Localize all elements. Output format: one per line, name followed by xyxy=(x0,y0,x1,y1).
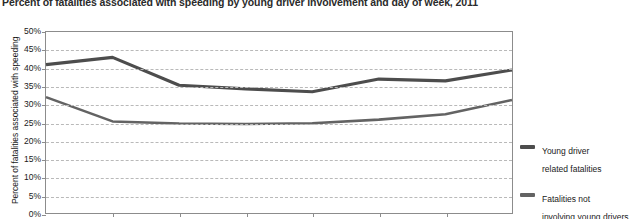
y-axis-tick-labels: 50%45%40%35%30%25%20%15%10%5%0% xyxy=(13,31,44,214)
y-axis-tick-label: 20% xyxy=(24,136,41,146)
gridline xyxy=(46,160,512,161)
y-axis-tick-label: 40% xyxy=(24,63,41,73)
y-axis-tick xyxy=(42,32,46,33)
gridline xyxy=(46,142,512,143)
y-axis-tick xyxy=(42,69,46,70)
legend-swatch-icon xyxy=(520,145,535,149)
y-axis-tick xyxy=(42,124,46,125)
legend-label: Young driver related fatalities xyxy=(542,146,602,174)
x-axis-tick xyxy=(180,213,181,217)
series-line-1 xyxy=(46,97,512,124)
legend-item[interactable]: Young driver related fatalities xyxy=(520,140,634,176)
y-axis-tick xyxy=(42,197,46,198)
y-axis-tick-label: 50% xyxy=(24,26,41,36)
y-axis-tick-label: 0% xyxy=(29,209,41,219)
y-axis-tick-label: 35% xyxy=(24,81,41,91)
legend-label: Fatalities not involving young drivers xyxy=(542,194,628,219)
gridline xyxy=(46,87,512,88)
y-axis-title-container: Percent of fatalities associated with sp… xyxy=(0,14,13,216)
x-axis-tick xyxy=(247,213,248,217)
x-axis-tick xyxy=(447,213,448,217)
gridline xyxy=(46,197,512,198)
y-axis-tick xyxy=(42,142,46,143)
plot-area xyxy=(45,31,513,214)
y-axis-tick-label: 25% xyxy=(24,118,41,128)
y-axis-tick xyxy=(42,215,46,216)
legend-item[interactable]: Fatalities not involving young drivers xyxy=(520,188,634,219)
legend: Young driver related fatalitiesFatalitie… xyxy=(520,140,634,219)
gridline xyxy=(46,105,512,106)
y-axis-tick xyxy=(42,160,46,161)
gridline xyxy=(46,124,512,125)
y-axis-tick xyxy=(42,105,46,106)
gridline xyxy=(46,50,512,51)
gridline xyxy=(46,69,512,70)
y-axis-tick xyxy=(42,178,46,179)
x-axis-tick xyxy=(380,213,381,217)
y-axis-tick xyxy=(42,87,46,88)
x-axis-tick xyxy=(313,213,314,217)
series-layer xyxy=(46,32,512,213)
y-axis-tick-label: 45% xyxy=(24,44,41,54)
y-axis-tick-label: 30% xyxy=(24,99,41,109)
gridline xyxy=(46,178,512,179)
y-axis-tick-label: 10% xyxy=(24,172,41,182)
y-axis-tick-label: 5% xyxy=(29,191,41,201)
x-axis-tick xyxy=(113,213,114,217)
y-axis-tick xyxy=(42,50,46,51)
legend-swatch-icon xyxy=(520,193,535,197)
chart-title: Percent of fatalities associated with sp… xyxy=(2,0,632,8)
y-axis-tick-label: 15% xyxy=(24,154,41,164)
